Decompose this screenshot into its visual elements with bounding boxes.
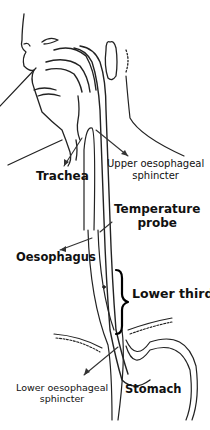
label-upper-sphincter-line2: sphincter [107, 170, 204, 182]
label-upper-sphincter-line1: Upper oesophageal [107, 158, 204, 170]
lower-third-brace [116, 270, 128, 334]
probe-tip [103, 286, 106, 289]
pointer-line-nose [0, 68, 36, 106]
label-temperature-probe: Temperature probe [114, 203, 200, 231]
label-oesophagus: Oesophagus [16, 251, 96, 264]
label-probe-line1: Temperature [114, 203, 200, 217]
label-lower-sphincter-line2: sphincter [16, 394, 108, 405]
label-trachea: Trachea [36, 170, 89, 184]
face-outline [8, 14, 80, 166]
ear [105, 42, 128, 80]
label-stomach: Stomach [125, 383, 181, 396]
label-lower-oesophageal-sphincter: Lower oesophageal sphincter [16, 383, 108, 405]
label-upper-oesophageal-sphincter: Upper oesophageal sphincter [107, 158, 204, 181]
label-probe-line2: probe [114, 217, 200, 231]
label-lower-third: Lower third [132, 287, 210, 301]
neck-back [126, 76, 184, 156]
stomach [126, 339, 197, 420]
